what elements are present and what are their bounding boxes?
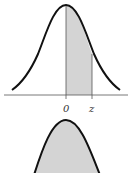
- label-z: z: [88, 103, 95, 114]
- top-normal-curve-figure: 0 z: [4, 5, 128, 114]
- bottom-normal-curve-figure: [34, 120, 100, 173]
- label-zero: 0: [63, 103, 70, 114]
- normal-distribution-diagram: 0 z: [0, 0, 132, 173]
